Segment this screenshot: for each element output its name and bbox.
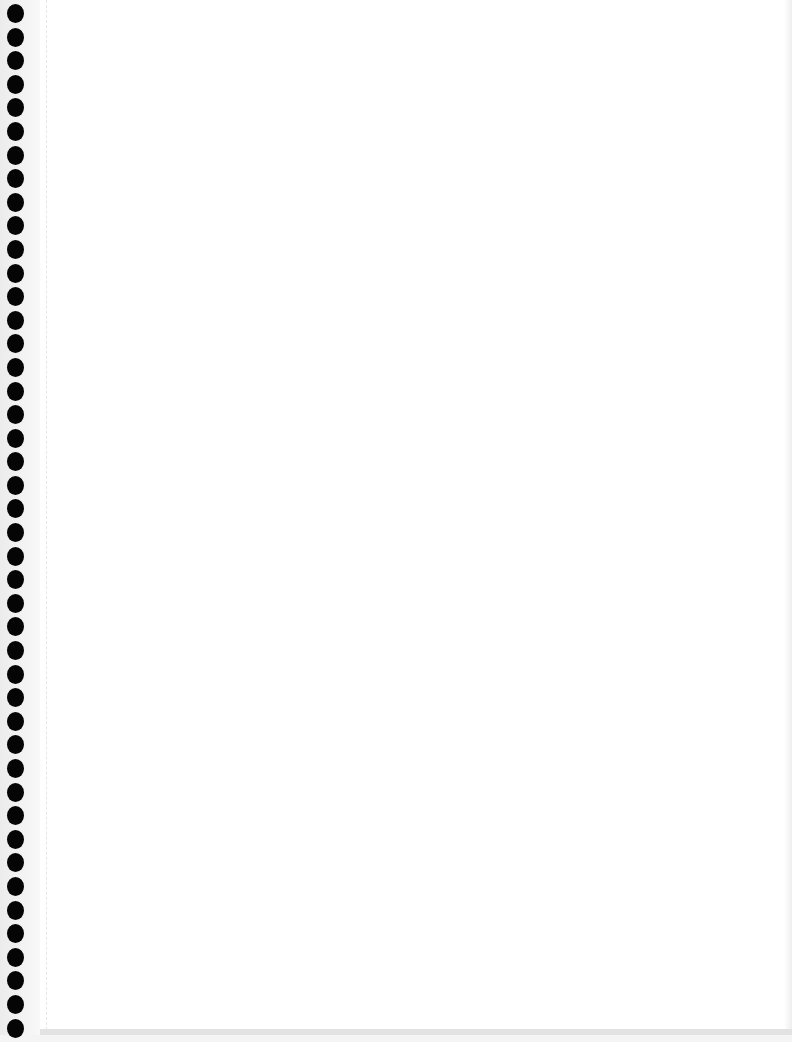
spiral-hole-icon	[7, 216, 24, 235]
spiral-hole-icon	[7, 51, 24, 70]
spiral-hole-icon	[7, 75, 24, 94]
spiral-hole-icon	[7, 334, 24, 353]
spiral-hole-icon	[7, 405, 24, 424]
spiral-hole-icon	[7, 783, 24, 802]
spiral-hole-icon	[7, 499, 24, 518]
spiral-hole-icon	[7, 452, 24, 471]
spiral-hole-icon	[7, 688, 24, 707]
spiral-hole-icon	[7, 594, 24, 613]
spiral-hole-icon	[7, 1019, 24, 1038]
spiral-hole-icon	[7, 146, 24, 165]
margin-line	[46, 0, 47, 1035]
spiral-hole-icon	[7, 547, 24, 566]
spiral-hole-icon	[7, 358, 24, 377]
spiral-hole-icon	[7, 570, 24, 589]
spiral-hole-icon	[7, 877, 24, 896]
spiral-hole-icon	[7, 948, 24, 967]
spiral-hole-icon	[7, 924, 24, 943]
spiral-hole-icon	[7, 806, 24, 825]
spiral-hole-icon	[7, 28, 24, 47]
spiral-hole-icon	[7, 971, 24, 990]
spiral-hole-icon	[7, 287, 24, 306]
spiral-hole-icon	[7, 240, 24, 259]
spiral-hole-icon	[7, 617, 24, 636]
spiral-hole-icon	[7, 665, 24, 684]
spiral-hole-icon	[7, 735, 24, 754]
right-edge	[784, 0, 792, 1035]
spiral-hole-icon	[7, 429, 24, 448]
spiral-hole-icon	[7, 995, 24, 1014]
spiral-hole-icon	[7, 311, 24, 330]
bottom-edge	[40, 1029, 792, 1035]
spiral-hole-icon	[7, 901, 24, 920]
spiral-hole-icon	[7, 641, 24, 660]
spiral-hole-icon	[7, 122, 24, 141]
spiral-holes	[7, 4, 27, 1042]
spiral-hole-icon	[7, 830, 24, 849]
spiral-hole-icon	[7, 169, 24, 188]
spiral-hole-icon	[7, 853, 24, 872]
spiral-hole-icon	[7, 759, 24, 778]
spiral-hole-icon	[7, 523, 24, 542]
spiral-hole-icon	[7, 712, 24, 731]
spiral-hole-icon	[7, 476, 24, 495]
spiral-hole-icon	[7, 4, 24, 23]
spiral-hole-icon	[7, 193, 24, 212]
spiral-hole-icon	[7, 264, 24, 283]
spiral-hole-icon	[7, 382, 24, 401]
spiral-hole-icon	[7, 98, 24, 117]
